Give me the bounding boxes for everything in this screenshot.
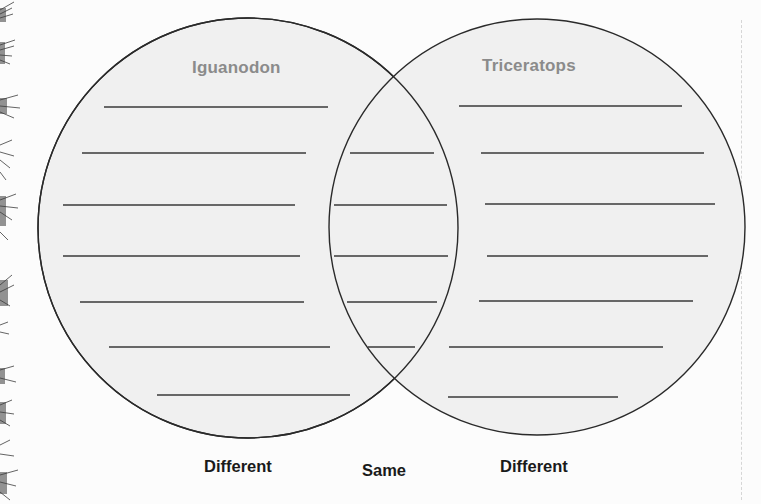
- left-circle-title: Iguanodon: [192, 58, 281, 78]
- overlap-same-label: Same: [362, 461, 406, 480]
- right-circle-title: Triceratops: [482, 56, 576, 76]
- right-different-label: Different: [500, 457, 568, 476]
- right-circle-fill: [329, 19, 745, 435]
- left-different-label: Different: [204, 457, 272, 476]
- venn-diagram-worksheet: Iguanodon Triceratops Different Same Dif…: [0, 0, 761, 504]
- venn-circles: [0, 0, 761, 504]
